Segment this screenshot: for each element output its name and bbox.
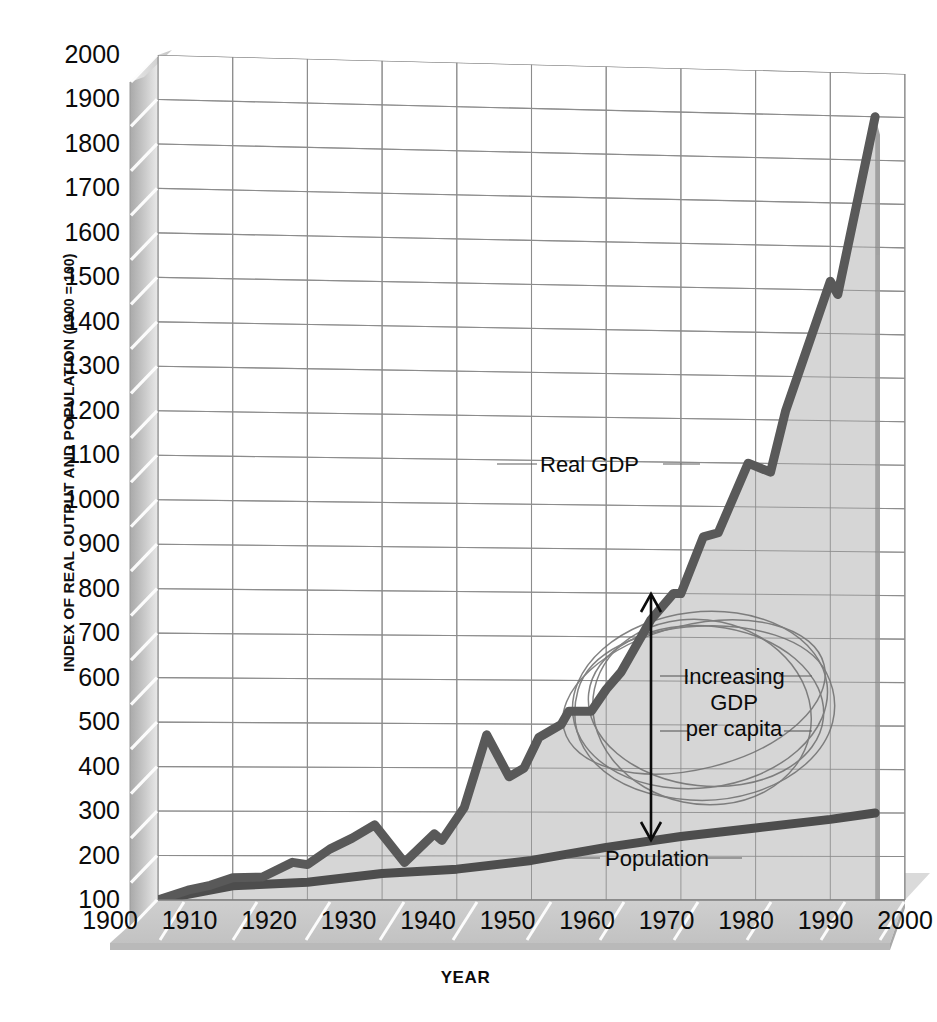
- y-tick-1600: 1600: [0, 220, 120, 245]
- x-tick-1930: 1930: [309, 908, 389, 933]
- x-tick-1900: 1900: [70, 908, 150, 933]
- x-tick-1970: 1970: [627, 908, 707, 933]
- gdp-per-capita-line-3: per capita: [664, 716, 804, 742]
- x-axis-title: YEAR: [0, 968, 931, 988]
- x-tick-1960: 1960: [547, 908, 627, 933]
- y-tick-900: 900: [0, 531, 120, 556]
- y-tick-1200: 1200: [0, 398, 120, 423]
- y-tick-1500: 1500: [0, 264, 120, 289]
- y-tick-300: 300: [0, 798, 120, 823]
- x-tick-1980: 1980: [706, 908, 786, 933]
- y-tick-500: 500: [0, 709, 120, 734]
- x-tick-2000: 2000: [865, 908, 937, 933]
- y-tick-1000: 1000: [0, 487, 120, 512]
- real-gdp-label: Real GDP: [540, 452, 639, 478]
- y-tick-700: 700: [0, 620, 120, 645]
- x-tick-1990: 1990: [786, 908, 866, 933]
- y-tick-1400: 1400: [0, 309, 120, 334]
- gdp-per-capita-line-1: Increasing: [664, 664, 804, 690]
- gdp-per-capita-label: Increasing GDP per capita: [664, 664, 804, 742]
- y-tick-2000: 2000: [0, 42, 120, 67]
- y-tick-200: 200: [0, 843, 120, 868]
- y-tick-1100: 1100: [0, 442, 120, 467]
- y-tick-1800: 1800: [0, 131, 120, 156]
- y-tick-1900: 1900: [0, 86, 120, 111]
- x-tick-1940: 1940: [388, 908, 468, 933]
- gdp-per-capita-line-2: GDP: [664, 690, 804, 716]
- population-label: Population: [605, 846, 709, 872]
- x-tick-1950: 1950: [468, 908, 548, 933]
- y-tick-1300: 1300: [0, 353, 120, 378]
- x-tick-1910: 1910: [150, 908, 230, 933]
- y-tick-400: 400: [0, 754, 120, 779]
- y-tick-800: 800: [0, 576, 120, 601]
- x-tick-1920: 1920: [229, 908, 309, 933]
- y-tick-1700: 1700: [0, 175, 120, 200]
- y-tick-600: 600: [0, 665, 120, 690]
